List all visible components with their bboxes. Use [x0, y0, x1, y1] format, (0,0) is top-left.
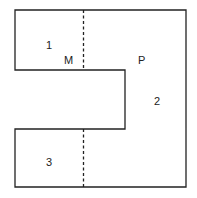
point-m-label: M	[64, 54, 73, 66]
region-3-label: 3	[46, 156, 52, 168]
diagram-canvas: 1 M P 2 3	[0, 0, 197, 198]
point-p-label: P	[138, 54, 145, 66]
outer-outline	[15, 10, 186, 187]
region-1-label: 1	[46, 39, 52, 51]
region-2-label: 2	[154, 95, 160, 107]
